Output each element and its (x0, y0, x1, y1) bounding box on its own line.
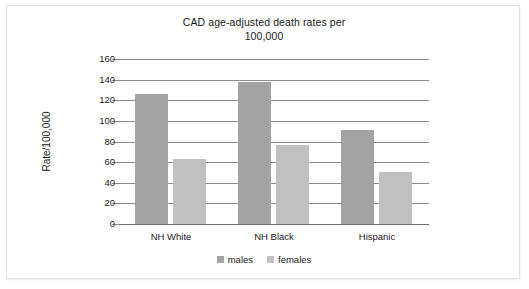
bar-nh-black-males[interactable] (238, 82, 271, 224)
ytick-label-160: 160 (75, 53, 115, 64)
y-axis-title: Rate/100,000 (41, 59, 55, 224)
axis-baseline-0: 0 (119, 224, 429, 225)
chart-title-line-1: CAD age-adjusted death rates per (183, 16, 346, 28)
ytick-label-140: 140 (75, 74, 115, 85)
chart-title-line-2: 100,000 (7, 29, 521, 43)
ytick-label-20: 20 (75, 197, 115, 208)
bar-nh-white-males[interactable] (135, 94, 168, 224)
chart-title: CAD age-adjusted death rates per 100,000 (7, 15, 521, 43)
ytick-label-40: 40 (75, 177, 115, 188)
plot-area: 160 140 120 100 80 60 40 20 (119, 59, 429, 224)
chart-figure-frame: CAD age-adjusted death rates per 100,000… (6, 5, 520, 279)
xtick-label-hispanic: Hispanic (317, 231, 437, 242)
bar-nh-white-females[interactable] (173, 159, 206, 224)
ytick-label-100: 100 (75, 115, 115, 126)
ytick-label-0: 0 (75, 218, 115, 229)
legend-label-females: females (278, 254, 311, 265)
legend-entry-females[interactable]: females (267, 254, 311, 265)
legend-swatch-females-icon (267, 256, 274, 263)
ytick-label-120: 120 (75, 94, 115, 105)
legend-entry-males[interactable]: males (217, 254, 253, 265)
xtick-label-nh-white: NH White (111, 231, 231, 242)
chart-legend: males females (7, 254, 521, 265)
bar-hispanic-males[interactable] (341, 130, 374, 224)
ytick-label-60: 60 (75, 156, 115, 167)
gridline-160: 160 (119, 59, 429, 60)
legend-swatch-males-icon (217, 256, 224, 263)
xtick-label-nh-black: NH Black (214, 231, 334, 242)
legend-label-males: males (228, 254, 253, 265)
ytick-label-80: 80 (75, 136, 115, 147)
bar-nh-black-females[interactable] (276, 145, 309, 224)
gridline-140: 140 (119, 80, 429, 81)
bar-hispanic-females[interactable] (379, 172, 412, 224)
